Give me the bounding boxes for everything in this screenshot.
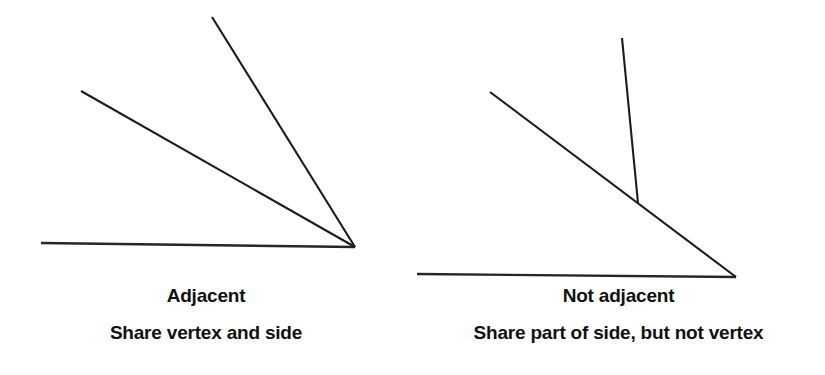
adjacent-middle-ray: [81, 91, 355, 247]
adjacent-angle-diagram: [0, 0, 412, 280]
not-adjacent-near-vertical-ray: [622, 38, 638, 203]
not-adjacent-horizontal-base-ray: [417, 274, 736, 277]
caption-adjacent-subtitle: Share vertex and side: [0, 322, 412, 343]
caption-adjacent-title: Adjacent: [0, 285, 412, 306]
panel-adjacent: [0, 0, 412, 375]
adjacent-angles-figure: Adjacent Share vertex and side Not adjac…: [0, 0, 825, 375]
adjacent-horizontal-base-ray: [41, 243, 355, 247]
caption-not-adjacent-subtitle: Share part of side, but not vertex: [412, 322, 825, 343]
not-adjacent-angle-diagram: [412, 0, 825, 290]
adjacent-steep-ray: [212, 17, 355, 247]
panel-not-adjacent: [412, 0, 825, 375]
not-adjacent-diagonal-ray: [490, 92, 736, 277]
caption-not-adjacent-title: Not adjacent: [412, 285, 825, 306]
